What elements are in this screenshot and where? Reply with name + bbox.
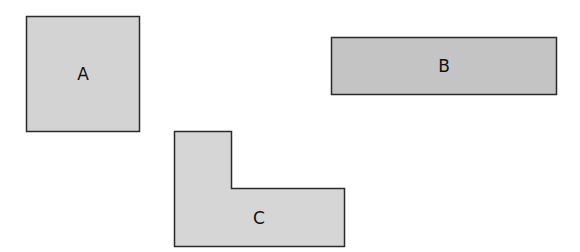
shape-c: C [175, 132, 345, 247]
shape-b: B [332, 38, 557, 95]
shape-b-label: B [438, 56, 450, 76]
shape-a: A [27, 17, 140, 132]
shape-a-label: A [77, 64, 89, 84]
diagram-canvas: A B C [0, 0, 580, 252]
shape-c-l-shape [175, 132, 345, 247]
shape-c-label: C [253, 208, 265, 228]
